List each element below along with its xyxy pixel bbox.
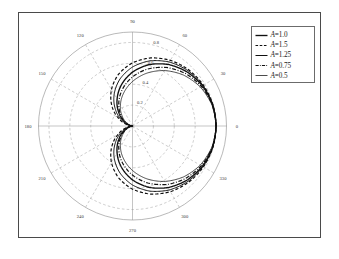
legend-item: A=1.0: [255, 30, 312, 40]
angular-tick-label: 60: [182, 33, 187, 38]
legend-line-sample-0: [255, 32, 268, 39]
screenshot-root: 0306090120150180210240270300330 0.20.40.…: [0, 0, 339, 259]
legend-item: A=0.5: [255, 71, 312, 81]
legend-label-0: A=1.0: [271, 31, 288, 39]
radial-tick-label: 0.6: [148, 60, 154, 65]
legend-line-sample-4: [255, 72, 268, 79]
angular-tick-label: 30: [221, 71, 226, 76]
legend-label-4: A=0.5: [271, 72, 288, 80]
angular-tick-label: 90: [130, 19, 135, 24]
legend-line-sample-3: [255, 62, 268, 69]
angular-tick-label: 120: [77, 33, 85, 38]
radial-tick-label: 0.2: [137, 100, 143, 105]
angular-tick-label: 150: [39, 71, 47, 76]
angular-tick-label: 0: [236, 124, 239, 129]
legend-label-1: A=1.5: [271, 41, 288, 49]
angular-tick-label: 270: [129, 228, 137, 233]
legend-line-sample-2: [255, 52, 268, 59]
legend-item: A=1.5: [255, 40, 312, 50]
legend-item: A=1.25: [255, 50, 312, 60]
legend-item: A=0.75: [255, 61, 312, 71]
angular-tick-label: 180: [25, 124, 33, 129]
legend-line-sample-1: [255, 42, 268, 49]
grid-spoke: [133, 126, 180, 207]
legend-label-2: A=1.25: [271, 51, 291, 59]
legend: A=1.0 A=1.5 A=1.25 A=0.75 A=0.5: [251, 26, 315, 83]
angular-tick-label: 300: [181, 214, 189, 219]
legend-label-3: A=0.75: [271, 62, 291, 70]
angular-tick-label: 240: [77, 214, 85, 219]
grid-spoke: [86, 45, 133, 126]
radial-tick-label: 0.4: [142, 80, 148, 85]
figure-frame: 0306090120150180210240270300330 0.20.40.…: [18, 12, 321, 238]
angular-tick-label: 210: [39, 176, 47, 181]
angular-tick-label: 330: [220, 176, 228, 181]
radial-tick-label: 0.8: [153, 40, 159, 45]
